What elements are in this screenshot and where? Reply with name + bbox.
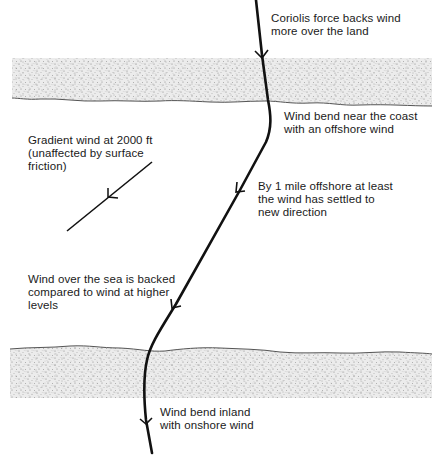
settled-direction-label: By 1 mile offshore at least the wind has…	[258, 180, 393, 219]
diagram-graphic	[0, 0, 442, 465]
offshore-bend-label: Wind bend near the coast with an offshor…	[284, 110, 417, 136]
upper-land-region	[12, 58, 432, 106]
coriolis-label: Coriolis force backs wind more over the …	[271, 12, 401, 38]
wind-diagram: Coriolis force backs wind more over the …	[0, 0, 442, 465]
gradient-wind-label: Gradient wind at 2000 ft (unaffected by …	[28, 134, 153, 173]
inland-bend-label: Wind bend inland with onshore wind	[160, 406, 254, 432]
lower-land-region	[10, 346, 432, 398]
backed-wind-label: Wind over the sea is backed compared to …	[28, 273, 175, 312]
